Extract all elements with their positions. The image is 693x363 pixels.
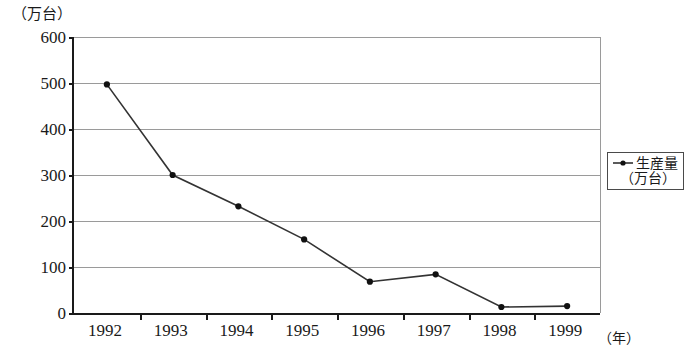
x-axis-tick-label-group: 19921993199419951996199719981999 — [72, 322, 598, 350]
y-axis-tick-label: 500 — [4, 75, 66, 92]
plot-area — [72, 37, 600, 315]
y-axis-tick-label-group: 0100200300400500600 — [0, 37, 66, 313]
legend: 生産量 （万台） — [607, 152, 684, 190]
data-point-marker — [104, 81, 110, 87]
x-axis-tick-label: 1996 — [333, 322, 403, 341]
y-axis-unit-label: （万台） — [12, 2, 72, 23]
y-axis-tick-label: 300 — [4, 167, 66, 184]
legend-entry-production-volume: 生産量 — [612, 156, 678, 171]
x-axis-tick-label: 1997 — [399, 322, 469, 341]
legend-unit-label: （万台） — [612, 171, 678, 186]
legend-line-with-dot-marker-icon — [612, 157, 634, 169]
x-axis-tick-label: 1998 — [464, 322, 534, 341]
y-axis-tick-label: 600 — [4, 29, 66, 46]
line-chart-figure: （万台） 0100200300400500600 199219931994199… — [0, 0, 693, 363]
data-point-marker — [433, 271, 439, 277]
data-point-marker — [498, 304, 504, 310]
y-axis-tick-label: 0 — [4, 305, 66, 322]
series-line — [107, 84, 567, 307]
x-axis-tick-label: 1999 — [530, 322, 600, 341]
data-point-marker — [367, 279, 373, 285]
x-axis-tick-mark — [271, 313, 273, 320]
x-axis-tick-label: 1993 — [136, 322, 206, 341]
series-production-volume — [74, 37, 600, 313]
data-point-marker — [170, 172, 176, 178]
x-axis-tick-mark — [403, 313, 405, 320]
x-axis-tick-mark — [534, 313, 536, 320]
y-axis-tick-mark — [69, 313, 74, 315]
data-point-marker — [301, 236, 307, 242]
x-axis-tick-label: 1994 — [201, 322, 271, 341]
y-axis-tick-label: 400 — [4, 121, 66, 138]
x-axis-tick-label: 1992 — [70, 322, 140, 341]
x-axis-tick-mark — [337, 313, 339, 320]
y-axis-tick-label: 200 — [4, 213, 66, 230]
x-axis-tick-mark — [469, 313, 471, 320]
x-axis-tick-label: 1995 — [267, 322, 337, 341]
data-point-marker — [564, 303, 570, 309]
y-axis-tick-label: 100 — [4, 259, 66, 276]
x-axis-tick-mark — [206, 313, 208, 320]
x-axis-unit-label: （年） — [598, 327, 640, 347]
plot-right-border — [600, 37, 601, 313]
x-axis-tick-mark — [140, 313, 142, 320]
series-marker-group — [104, 81, 570, 310]
legend-series-label: 生産量 — [636, 156, 678, 171]
data-point-marker — [235, 203, 241, 209]
